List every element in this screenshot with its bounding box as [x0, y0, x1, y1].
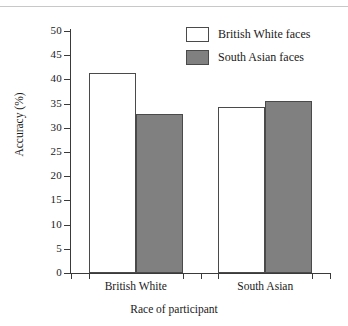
y-tick-label-text: 30 [22, 122, 62, 133]
page-rule-divider [0, 6, 348, 7]
x-tick [183, 274, 184, 279]
x-tick [312, 274, 313, 279]
bar [89, 73, 136, 273]
y-tick-label-text: 10 [22, 219, 62, 230]
y-tick-label-text: 50 [22, 25, 62, 36]
x-tick [330, 274, 331, 279]
y-tick [64, 152, 70, 153]
y-tick [64, 249, 70, 250]
legend-item-british-white-faces: British White faces [186, 24, 341, 45]
y-tick-label: 45 [16, 49, 62, 60]
x-tick [71, 274, 72, 279]
y-tick-label-text: 20 [22, 170, 62, 181]
y-tick-label-text: 35 [22, 98, 62, 109]
y-tick [64, 31, 70, 32]
y-tick-label-text: 5 [22, 243, 62, 254]
y-tick-label-text: 15 [22, 194, 62, 205]
x-group-label: British White [76, 280, 196, 293]
y-axis-title: Accuracy (%) [13, 70, 26, 180]
x-group-label: South Asian [205, 280, 325, 293]
y-tick [64, 273, 70, 274]
y-tick [64, 55, 70, 56]
x-axis-title: Race of participant [0, 303, 348, 316]
y-tick-label: 0 [16, 267, 62, 278]
x-tick [201, 274, 202, 279]
y-tick [64, 200, 70, 201]
y-tick [64, 176, 70, 177]
y-tick [64, 79, 70, 80]
white-swatch-icon [186, 27, 209, 42]
y-tick-label-text: 45 [22, 49, 62, 60]
y-tick [64, 128, 70, 129]
y-tick-label-text: 0 [22, 267, 62, 278]
bar [265, 101, 312, 273]
y-tick-label-text: 40 [22, 73, 62, 84]
y-tick-label: 50 [16, 25, 62, 36]
y-tick-label: 15 [16, 194, 62, 205]
x-tick [89, 274, 90, 279]
bar-chart-figure: 05101520253035404550 British WhiteSouth … [0, 0, 348, 326]
y-tick [64, 104, 70, 105]
legend-label: British White faces [218, 28, 310, 41]
y-tick-label: 5 [16, 243, 62, 254]
chart-legend: British White faces South Asian faces [186, 24, 341, 70]
legend-label: South Asian faces [218, 51, 304, 64]
gray-swatch-icon [186, 50, 209, 65]
legend-item-south-asian-faces: South Asian faces [186, 47, 341, 68]
y-tick-label: 10 [16, 219, 62, 230]
bar [218, 107, 265, 273]
y-tick [64, 225, 70, 226]
x-tick [218, 274, 219, 279]
bar [136, 114, 183, 273]
y-tick-label-text: 25 [22, 146, 62, 157]
